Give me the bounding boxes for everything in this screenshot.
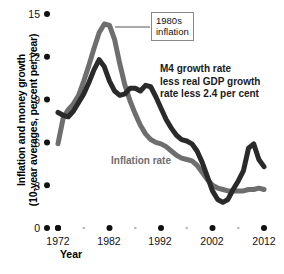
- callout-line2: inflation: [156, 26, 189, 37]
- x-tick-label-1982: 1982: [89, 235, 129, 247]
- x-tick-dot-2012: [261, 225, 267, 231]
- x-minor-tick-dot-1987: [134, 227, 137, 230]
- y-tick-dot-6: [44, 139, 50, 145]
- x-tick-label-2002: 2002: [192, 235, 232, 247]
- chart-container: Inflation and money growth (10-year aver…: [0, 0, 284, 274]
- x-minor-tick-dot-2007: [237, 227, 240, 230]
- chart-plot-area: [0, 0, 284, 274]
- y-tick-label-3: 3: [18, 180, 40, 192]
- y-tick-dot-9: [44, 97, 50, 103]
- y-tick-label-0: 0: [18, 222, 40, 234]
- x-tick-label-1992: 1992: [140, 235, 180, 247]
- callout-line1: 1980s: [156, 15, 189, 26]
- y-tick-dot-3: [44, 182, 50, 188]
- callout-1980s-inflation: 1980s inflation: [151, 12, 194, 41]
- y-tick-label-12: 12: [18, 51, 40, 63]
- x-tick-dot-1992: [158, 225, 164, 231]
- x-axis-title: Year: [48, 248, 94, 260]
- x-axis-tick-marks: [55, 225, 267, 231]
- y-axis-tick-marks: [44, 11, 61, 231]
- y-tick-label-15: 15: [18, 8, 40, 20]
- annotation-m4-growth: M4 growth rate less real GDP growth rate…: [160, 63, 260, 101]
- annotation-m4-line2: less real GDP growth: [160, 76, 260, 89]
- x-tick-dot-1972: [55, 225, 61, 231]
- x-minor-tick-dot-1977: [82, 227, 85, 230]
- y-tick-dot-15: [44, 11, 50, 17]
- x-tick-dot-2002: [210, 225, 216, 231]
- y-tick-dot-12: [44, 54, 50, 60]
- annotation-m4-line1: M4 growth rate: [160, 63, 260, 76]
- annotation-m4-line3: rate less 2.4 per cent: [160, 88, 260, 101]
- x-minor-tick-dot-1997: [185, 227, 188, 230]
- y-tick-label-6: 6: [18, 137, 40, 149]
- x-tick-dot-1982: [107, 225, 113, 231]
- y-tick-label-9: 9: [18, 94, 40, 106]
- y-tick-dot-0: [44, 225, 50, 231]
- series-label-inflation-rate: Inflation rate: [111, 155, 171, 166]
- x-tick-label-2012: 2012: [244, 235, 284, 247]
- x-tick-label-1972: 1972: [38, 235, 78, 247]
